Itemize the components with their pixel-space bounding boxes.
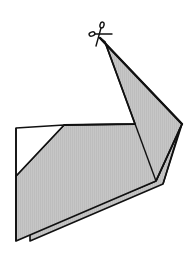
origami-figure	[0, 0, 196, 262]
scissors-icon	[88, 22, 112, 46]
top-edge-line	[64, 124, 135, 125]
origami-diagram	[0, 0, 196, 262]
